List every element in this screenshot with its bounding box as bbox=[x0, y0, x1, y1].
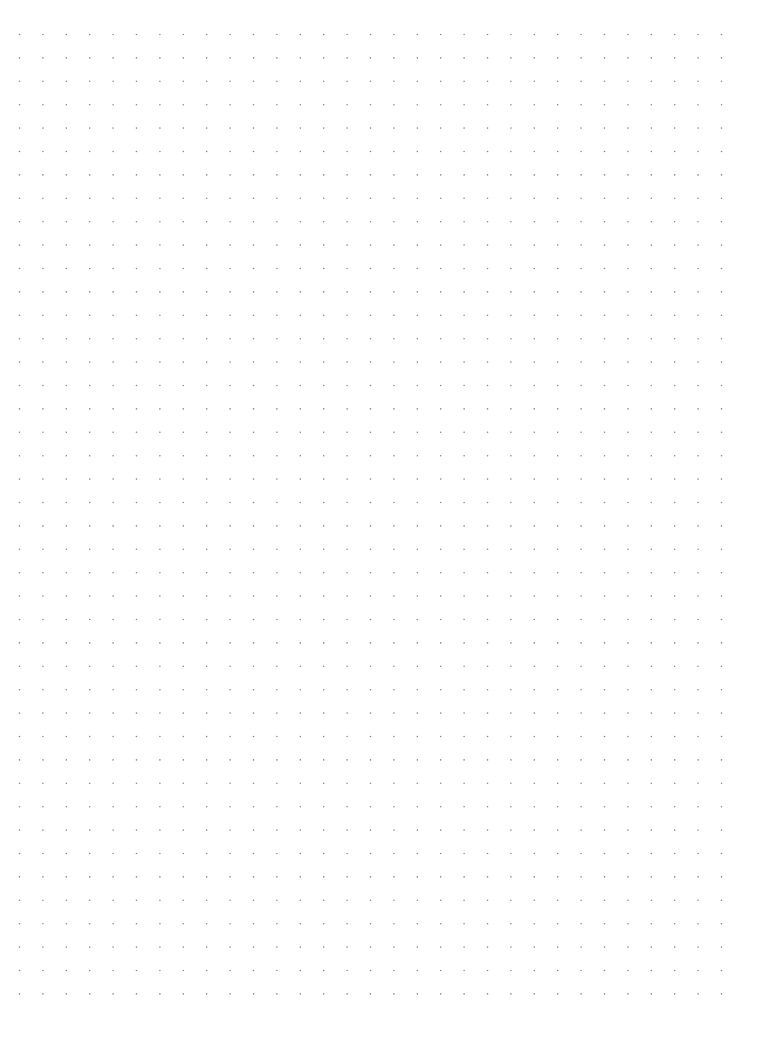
grid-dot bbox=[580, 900, 582, 902]
grid-dot bbox=[463, 993, 465, 995]
grid-dot bbox=[159, 57, 161, 59]
grid-dot bbox=[66, 783, 68, 785]
grid-dot bbox=[253, 455, 255, 457]
grid-dot bbox=[697, 432, 699, 434]
grid-dot bbox=[19, 385, 21, 387]
grid-dot bbox=[346, 642, 348, 644]
grid-dot bbox=[510, 291, 512, 293]
grid-dot bbox=[393, 666, 395, 668]
grid-dot bbox=[276, 923, 278, 925]
grid-dot bbox=[276, 853, 278, 855]
grid-dot bbox=[112, 900, 114, 902]
grid-dot bbox=[510, 642, 512, 644]
grid-dot bbox=[697, 876, 699, 878]
grid-dot bbox=[112, 923, 114, 925]
grid-dot bbox=[206, 478, 208, 480]
grid-dot bbox=[89, 455, 91, 457]
grid-dot bbox=[651, 244, 653, 246]
grid-dot bbox=[651, 478, 653, 480]
grid-dot bbox=[276, 736, 278, 738]
grid-dot bbox=[112, 315, 114, 317]
grid-dot bbox=[300, 993, 302, 995]
grid-dot bbox=[721, 759, 723, 761]
grid-dot bbox=[183, 549, 185, 551]
grid-dot bbox=[346, 127, 348, 129]
grid-dot bbox=[370, 595, 372, 597]
grid-dot bbox=[300, 127, 302, 129]
grid-dot bbox=[229, 408, 231, 410]
grid-dot bbox=[534, 666, 536, 668]
grid-dot bbox=[136, 315, 138, 317]
grid-dot bbox=[393, 361, 395, 363]
grid-dot bbox=[580, 291, 582, 293]
grid-dot bbox=[42, 595, 44, 597]
grid-dot bbox=[370, 525, 372, 527]
grid-dot bbox=[534, 221, 536, 223]
grid-dot bbox=[253, 57, 255, 59]
grid-dot bbox=[674, 244, 676, 246]
grid-dot bbox=[417, 57, 419, 59]
grid-dot bbox=[253, 432, 255, 434]
grid-dot bbox=[19, 502, 21, 504]
grid-dot bbox=[487, 502, 489, 504]
grid-dot bbox=[627, 151, 629, 153]
grid-dot bbox=[580, 642, 582, 644]
grid-dot bbox=[323, 174, 325, 176]
grid-dot bbox=[604, 946, 606, 948]
grid-dot bbox=[112, 408, 114, 410]
grid-dot bbox=[42, 34, 44, 36]
grid-dot bbox=[89, 689, 91, 691]
grid-dot bbox=[89, 923, 91, 925]
grid-dot bbox=[463, 174, 465, 176]
grid-dot bbox=[627, 642, 629, 644]
grid-dot bbox=[136, 549, 138, 551]
grid-dot bbox=[557, 151, 559, 153]
grid-dot bbox=[112, 525, 114, 527]
grid-dot bbox=[19, 666, 21, 668]
grid-dot bbox=[697, 478, 699, 480]
grid-dot bbox=[463, 151, 465, 153]
grid-dot bbox=[463, 689, 465, 691]
grid-dot bbox=[112, 853, 114, 855]
grid-dot bbox=[183, 946, 185, 948]
grid-dot bbox=[323, 876, 325, 878]
grid-dot bbox=[66, 946, 68, 948]
grid-dot bbox=[534, 900, 536, 902]
grid-dot bbox=[674, 993, 676, 995]
grid-dot bbox=[557, 595, 559, 597]
grid-dot bbox=[463, 666, 465, 668]
grid-dot bbox=[323, 291, 325, 293]
grid-dot bbox=[346, 736, 348, 738]
grid-dot bbox=[393, 104, 395, 106]
grid-dot bbox=[112, 268, 114, 270]
grid-dot bbox=[534, 853, 536, 855]
grid-dot bbox=[66, 315, 68, 317]
grid-dot bbox=[276, 666, 278, 668]
grid-dot bbox=[346, 244, 348, 246]
grid-dot bbox=[487, 478, 489, 480]
grid-dot bbox=[627, 385, 629, 387]
grid-dot bbox=[510, 127, 512, 129]
grid-dot bbox=[183, 783, 185, 785]
grid-dot bbox=[393, 783, 395, 785]
grid-dot bbox=[417, 34, 419, 36]
grid-dot bbox=[300, 946, 302, 948]
grid-dot bbox=[89, 853, 91, 855]
grid-dot bbox=[534, 408, 536, 410]
grid-dot bbox=[19, 876, 21, 878]
grid-dot bbox=[206, 712, 208, 714]
grid-dot bbox=[229, 572, 231, 574]
grid-dot bbox=[183, 385, 185, 387]
grid-dot bbox=[674, 900, 676, 902]
grid-dot bbox=[674, 478, 676, 480]
grid-dot bbox=[674, 408, 676, 410]
grid-dot bbox=[300, 104, 302, 106]
grid-dot bbox=[651, 876, 653, 878]
grid-dot bbox=[534, 806, 536, 808]
grid-dot bbox=[206, 198, 208, 200]
grid-dot bbox=[487, 104, 489, 106]
grid-dot bbox=[604, 642, 606, 644]
grid-dot bbox=[580, 174, 582, 176]
grid-dot bbox=[323, 408, 325, 410]
grid-dot bbox=[300, 34, 302, 36]
